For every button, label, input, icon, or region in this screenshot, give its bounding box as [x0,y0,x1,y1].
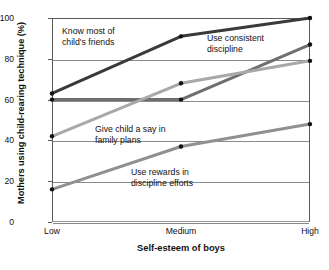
series-label-line: discipline efforts [131,178,193,189]
series-label-3: Use rewards indiscipline efforts [131,167,193,188]
data-point-marker [50,134,54,138]
y-axis-title: Mothers using child-rearing technique (%… [16,18,26,208]
series-label-0: Know most ofchild's friends [62,26,115,47]
y-tick-label: 40 [0,136,14,145]
data-point-marker [179,34,183,38]
series-label-1: Use consistentdiscipline [207,33,264,54]
data-point-marker [179,81,183,85]
gridline [53,223,309,224]
y-tick-label: 0 [0,218,14,227]
series-line-1 [52,45,310,100]
data-point-marker [308,122,312,126]
series-label-line: Use rewards in [131,167,193,178]
y-tick-label: 60 [0,96,14,105]
series-label-line: Give child a say in [95,124,166,135]
data-point-marker [179,144,183,148]
x-tick-label-low: Low [17,226,87,236]
series-label-line: Know most of [62,26,115,37]
line-chart: Mothers using child-rearing technique (%… [0,0,329,270]
x-axis-title: Self-esteem of boys [52,243,310,253]
y-tick-label: 20 [0,177,14,186]
y-tick-label: 80 [0,55,14,64]
series-lines [52,18,310,222]
data-point-marker [308,42,312,46]
data-point-marker [50,187,54,191]
y-tick-label: 100 [0,14,14,23]
series-label-line: Use consistent [207,33,264,44]
data-point-marker [308,59,312,63]
series-label-2: Give child a say infamily plans [95,124,166,145]
data-point-marker [50,91,54,95]
data-point-marker [308,16,312,20]
series-label-line: discipline [207,44,264,55]
series-label-line: child's friends [62,37,115,48]
data-point-marker [50,97,54,101]
y-tick-mark [48,222,52,223]
x-tick-label-high: High [275,226,329,236]
data-point-marker [179,97,183,101]
x-tick-label-medium: Medium [146,226,216,236]
series-label-line: family plans [95,135,166,146]
